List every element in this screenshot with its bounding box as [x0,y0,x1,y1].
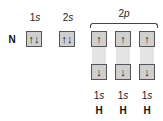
orbital-box-2s: ↑↓ [59,31,75,47]
bond-overlap-3 [140,47,154,65]
orbital-label-2p: 2p [112,8,136,19]
label-subshell: s [35,12,40,23]
label-subshell: s [99,90,104,101]
orbital-box-1s: ↑↓ [26,31,42,47]
label-subshell: s [123,90,128,101]
hydrogen-label-2: H [115,105,131,116]
orbital-box-2p-1: ↑ [91,31,107,47]
h-orbital-label-2: 1s [111,90,135,101]
h-orbital-label-3: 1s [135,90,159,101]
bond-overlap-2 [116,47,130,65]
bond-overlap-1 [92,47,106,65]
label-subshell: p [124,8,130,19]
orbital-box-2p-3: ↑ [139,31,155,47]
orbital-box-2p-2: ↑ [115,31,131,47]
hydrogen-label-1: H [91,105,107,116]
brace-2p [90,23,158,28]
nitrogen-label: N [4,34,20,45]
orbital-label-1s: 1s [23,12,47,23]
h-orbital-label-1: 1s [87,90,111,101]
orbital-label-2s: 2s [56,12,80,23]
orbital-box-h1s-2: ↓ [115,64,131,80]
label-subshell: s [147,90,152,101]
orbital-box-h1s-1: ↓ [91,64,107,80]
hydrogen-label-3: H [139,105,155,116]
orbital-box-h1s-3: ↓ [139,64,155,80]
label-subshell: s [68,12,73,23]
